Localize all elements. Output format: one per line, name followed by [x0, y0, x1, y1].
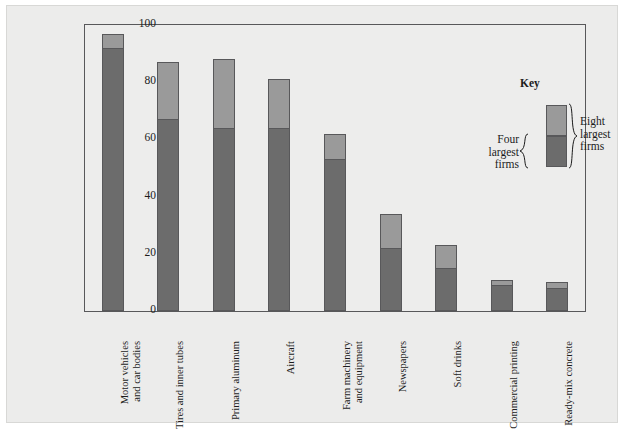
bar-segment-four-largest: [435, 268, 457, 311]
bar-segment-four-largest: [102, 48, 124, 311]
y-tick-label: 60: [145, 131, 157, 143]
y-tick-label: 100: [139, 17, 156, 29]
y-tick-label: 0: [150, 303, 156, 315]
bar: [546, 282, 568, 311]
bar: [157, 62, 179, 311]
bar-segment-four-largest: [546, 288, 568, 311]
bar: [491, 280, 513, 311]
brace-eight-largest-icon: [568, 103, 578, 169]
plot-area: Percentage of Total Industry Output 0204…: [85, 25, 585, 311]
legend-swatch: [546, 105, 567, 167]
x-axis-label: Primary aluminum: [230, 341, 242, 438]
x-axis-label: Motor vehicles and car bodies: [119, 341, 142, 438]
bar: [380, 214, 402, 311]
x-axis-label: Soft drinks: [452, 341, 464, 438]
bar-segment-four-largest: [268, 128, 290, 311]
x-axis-label: Aircraft: [285, 341, 297, 438]
bar: [268, 79, 290, 311]
legend-title: Key: [520, 77, 540, 89]
bar-segment-four-largest: [491, 285, 513, 311]
legend: Key Four largest firms Eight largest fir…: [467, 77, 632, 187]
x-axis-label: Newspapers: [397, 341, 409, 438]
bar: [324, 134, 346, 311]
bar-segment-four-largest: [380, 248, 402, 311]
x-axis-label: Tires and inner tubes: [174, 341, 186, 438]
bar-segment-four-largest: [157, 119, 179, 311]
y-tick-label: 40: [145, 189, 157, 201]
brace-four-largest-icon: [519, 133, 529, 169]
x-axis-label: Commercial printing: [508, 341, 520, 438]
bar: [213, 59, 235, 311]
bar-segment-four-largest: [324, 159, 346, 311]
chart-page: Percentage of Total Industry Output 0204…: [0, 0, 632, 438]
y-tick-label: 80: [145, 74, 157, 86]
x-axis-label: Ready-mix concrete: [563, 341, 575, 438]
legend-label-four-largest-firms: Four largest firms: [449, 133, 519, 171]
legend-swatch-eight-largest: [546, 105, 567, 136]
bar: [435, 245, 457, 311]
legend-swatch-four-largest: [546, 136, 567, 167]
x-axis-label: Farm machinery and equipment: [341, 341, 364, 438]
legend-label-eight-largest-firms: Eight largest firms: [580, 115, 632, 153]
bar: [102, 34, 124, 311]
y-tick-label: 20: [145, 246, 157, 258]
bar-segment-four-largest: [213, 128, 235, 311]
